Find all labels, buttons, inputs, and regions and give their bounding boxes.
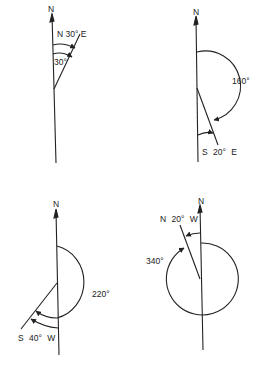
bearing-label: N 20° W	[160, 215, 198, 224]
panel-s20e	[194, 16, 241, 162]
angle-arc-large	[36, 246, 84, 318]
angle-arc-small	[186, 233, 200, 236]
angle-label: 340°	[146, 257, 164, 266]
north-line	[200, 206, 203, 350]
north-label: N	[48, 5, 54, 14]
bearing-diagrams	[0, 0, 260, 366]
angle-label: 160°	[232, 77, 250, 86]
bearing-line	[21, 283, 57, 329]
north-line	[56, 210, 59, 355]
north-arrow-icon	[194, 16, 198, 25]
angle-label: 220°	[92, 290, 110, 299]
angle-arc-outer	[53, 44, 75, 48]
north-label: N	[193, 8, 199, 17]
angle-arc-small	[198, 132, 213, 135]
north-label: N	[53, 200, 59, 209]
bearing-label: S 40° W	[18, 334, 55, 343]
north-arrow-icon	[54, 209, 58, 218]
angle-arc-small	[31, 319, 58, 328]
bearing-line	[197, 88, 218, 145]
angle-label: 30°	[54, 58, 67, 67]
north-label: N	[198, 197, 204, 206]
north-arrow-icon	[198, 205, 202, 213]
panel-n20w	[166, 205, 238, 350]
bearing-label: S 20° E	[202, 148, 237, 157]
north-arrow-icon	[50, 14, 54, 22]
bearing-label: N 30° E	[57, 30, 86, 39]
